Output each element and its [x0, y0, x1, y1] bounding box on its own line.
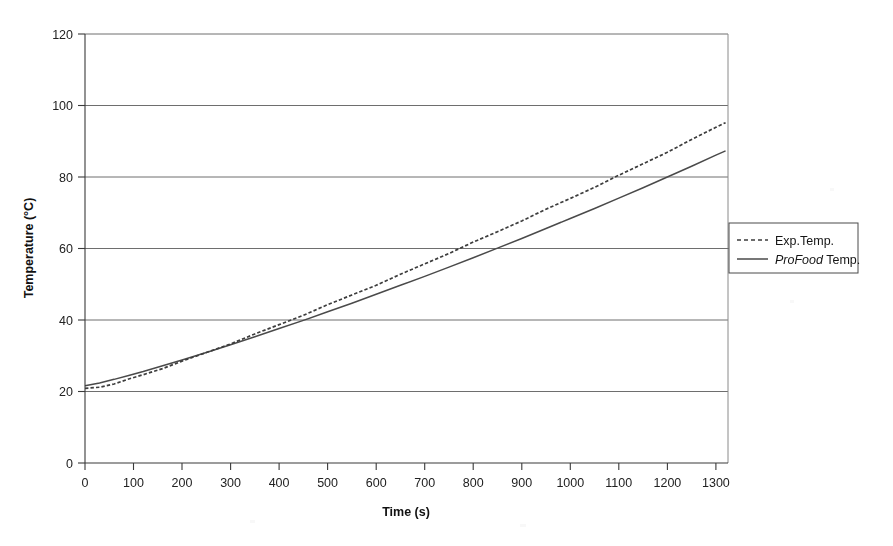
x-tick-label-0: 0 [82, 476, 89, 490]
y-tick-label-100: 100 [52, 99, 73, 113]
x-tick-label-300: 300 [220, 476, 241, 490]
y-tick-label-0: 0 [66, 457, 73, 471]
x-tick-label-900: 900 [511, 476, 532, 490]
chart-figure: 120 100 80 60 40 20 0 0 100 200 [0, 0, 893, 546]
x-tick-label-600: 600 [366, 476, 387, 490]
y-tick-label-80: 80 [59, 171, 73, 185]
legend-label-profood-rest: Temp. [823, 253, 860, 267]
y-tick-label-60: 60 [59, 242, 73, 256]
x-axis-title: Time (s) [382, 505, 430, 519]
legend: Exp.Temp. ProFood Temp. [729, 223, 860, 273]
legend-label-profood-italic: ProFood [775, 253, 824, 267]
x-tick-label-400: 400 [269, 476, 290, 490]
x-tick-label-1100: 1100 [605, 476, 632, 490]
chart-svg: 120 100 80 60 40 20 0 0 100 200 [0, 0, 893, 546]
x-tick-label-1000: 1000 [556, 476, 584, 490]
x-tick-label-1200: 1200 [653, 476, 681, 490]
legend-label-profood-temp: ProFood Temp. [775, 253, 860, 267]
x-tick-label-800: 800 [463, 476, 484, 490]
y-tick-label-20: 20 [59, 385, 73, 399]
x-tick-label-100: 100 [123, 476, 144, 490]
x-tick-label-500: 500 [317, 476, 338, 490]
x-tick-label-1300: 1300 [702, 476, 730, 490]
y-axis-title: Temperature (°C) [22, 198, 36, 299]
legend-label-exp-temp: Exp.Temp. [775, 234, 834, 248]
y-tick-label-120: 120 [52, 28, 73, 42]
x-tick-label-200: 200 [172, 476, 193, 490]
plot-area [85, 34, 728, 463]
y-tick-label-40: 40 [59, 314, 73, 328]
x-tick-label-700: 700 [414, 476, 435, 490]
